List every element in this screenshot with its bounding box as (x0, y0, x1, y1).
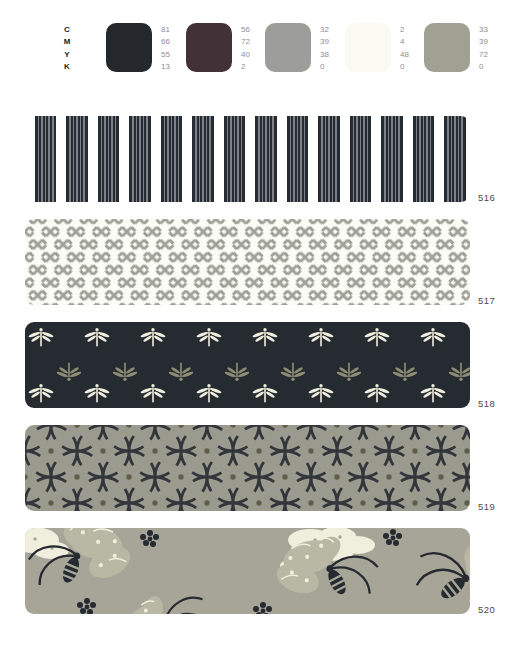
pattern-strip-518-dragonflies (25, 322, 470, 408)
sayagata-pattern-graphic (25, 219, 470, 305)
strip-label-520: 520 (478, 604, 510, 615)
dragonfly-pattern-graphic (25, 322, 470, 408)
cmyk-values: 32 39 38 0 (320, 24, 338, 74)
pattern-strip-519-shippo (25, 425, 470, 511)
cmyk-values: 81 66 55 13 (161, 24, 179, 74)
butterfly-pattern-graphic (25, 528, 470, 614)
channel-label-c: C (62, 24, 72, 36)
pattern-book-page: C M Y K 81 66 55 13 56 72 40 2 32 39 38 … (0, 0, 520, 659)
channel-label-y: Y (62, 49, 72, 61)
strip-label-519: 519 (478, 501, 510, 512)
channel-label-k: K (62, 61, 72, 73)
cmyk-values: 56 72 40 2 (241, 24, 259, 74)
pattern-strip-517-sayagata (25, 219, 470, 305)
cmyk-channel-labels: C M Y K (62, 24, 72, 74)
pattern-strip-516-stripes (25, 116, 470, 202)
color-swatch (106, 23, 152, 72)
pattern-strip-520-butterflies (25, 528, 470, 614)
cmyk-values: 33 39 72 0 (479, 24, 497, 74)
stripe-pattern-graphic (25, 116, 470, 202)
strip-label-517: 517 (478, 295, 510, 306)
strip-label-518: 518 (478, 398, 510, 409)
color-swatch (345, 23, 391, 72)
strip-label-516: 516 (478, 192, 510, 203)
shippo-pattern-graphic (25, 425, 470, 511)
color-swatch (424, 23, 470, 72)
cmyk-values: 2 4 48 0 (400, 24, 418, 74)
color-swatch (186, 23, 232, 72)
color-swatch (265, 23, 311, 72)
channel-label-m: M (62, 36, 72, 48)
